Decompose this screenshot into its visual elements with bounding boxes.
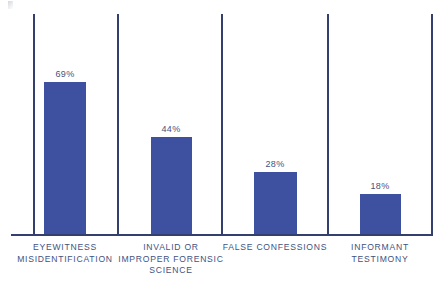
bar-value-2: 28%: [265, 159, 284, 169]
scan-artifact-mark: [8, 1, 13, 9]
bar-false-confessions: [254, 172, 297, 234]
axis-rule-left: [33, 14, 35, 236]
bar-value-1: 44%: [161, 124, 180, 134]
bar-value-3: 18%: [370, 181, 389, 191]
bar-informant-testimony: [360, 194, 401, 234]
bar-chart: 69% 44% 28% 18% EYEWITNESS MISIDENTIFICA…: [0, 0, 444, 283]
plot-area: 69% 44% 28% 18%: [0, 14, 444, 236]
bar-invalid-improper-forensic-science: [151, 137, 192, 234]
axis-rule-1: [117, 14, 119, 236]
axis-baseline: [11, 234, 433, 236]
axis-rule-3: [327, 14, 329, 236]
category-label-informant-testimony: INFORMANT TESTIMONY: [320, 242, 440, 265]
bar-eyewitness-misidentification: [44, 82, 86, 234]
axis-rule-right: [431, 14, 433, 236]
axis-rule-2: [221, 14, 223, 236]
bar-value-0: 69%: [55, 69, 74, 79]
